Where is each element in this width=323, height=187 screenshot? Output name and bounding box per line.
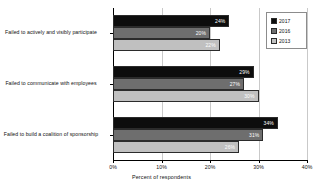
bar-value-label: 27%	[230, 81, 240, 87]
legend-label: 2016	[279, 28, 290, 34]
bar-2013-2[interactable]: 30%	[113, 90, 259, 102]
category-tick-mark	[110, 135, 113, 136]
x-tick-mark	[113, 160, 114, 163]
bar-2016-3[interactable]: 31%	[113, 129, 263, 141]
x-tick-mark	[259, 160, 260, 163]
x-tick-label: 0%	[109, 164, 117, 171]
x-tick-label: 10%	[156, 164, 167, 171]
x-tick-mark	[210, 160, 211, 163]
legend-item-2016[interactable]: 2016	[271, 26, 303, 35]
legend-swatch-icon	[271, 28, 277, 34]
category-label: Failed to build a coalition of sponsorsh…	[0, 131, 107, 138]
legend-item-2017[interactable]: 2017	[271, 16, 303, 25]
x-tick-label: 40%	[302, 164, 313, 171]
bar-value-label: 34%	[264, 120, 274, 126]
bar-value-label: 22%	[205, 42, 215, 48]
bar-value-label: 31%	[249, 132, 259, 138]
bar-2013-1[interactable]: 22%	[113, 39, 220, 51]
x-tick-label: 20%	[205, 164, 216, 171]
chart-legend: 2017 2016 2013	[266, 12, 307, 49]
category-tick-mark	[110, 33, 113, 34]
legend-swatch-icon	[271, 38, 277, 44]
bar-2013-3[interactable]: 26%	[113, 141, 239, 153]
bar-chart: 0%10%20%30%40% 24%20%22%29%27%30%34%31%2…	[0, 0, 323, 187]
bar-value-label: 29%	[239, 69, 249, 75]
category-tick-mark	[110, 84, 113, 85]
x-axis-title: Percent of respondents	[0, 174, 323, 180]
gridline	[307, 8, 308, 160]
bar-2017-1[interactable]: 24%	[113, 15, 229, 27]
bar-value-label: 24%	[215, 18, 225, 24]
bar-value-label: 30%	[244, 93, 254, 99]
legend-label: 2013	[279, 38, 290, 44]
bar-2016-1[interactable]: 20%	[113, 27, 210, 39]
bar-value-label: 26%	[225, 144, 235, 150]
bar-2017-3[interactable]: 34%	[113, 117, 278, 129]
category-label: Failed to actively and visibly participa…	[0, 29, 107, 36]
bar-2017-2[interactable]: 29%	[113, 66, 254, 78]
legend-swatch-icon	[271, 18, 277, 24]
bar-value-label: 20%	[196, 30, 206, 36]
legend-label: 2017	[279, 18, 290, 24]
bar-2016-2[interactable]: 27%	[113, 78, 244, 90]
x-tick-mark	[307, 160, 308, 163]
x-tick-label: 30%	[253, 164, 264, 171]
category-label: Failed to communicate with employees	[0, 80, 107, 87]
legend-item-2013[interactable]: 2013	[271, 36, 303, 45]
x-tick-mark	[162, 160, 163, 163]
